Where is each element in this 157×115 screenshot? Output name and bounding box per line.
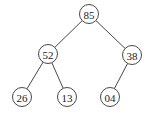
node-label: 38 (127, 50, 139, 62)
tree-edge-85-38 (96, 21, 125, 49)
tree-edge-38-04 (114, 63, 127, 88)
tree-node-04: 04 (101, 88, 120, 107)
tree-node-13: 13 (58, 88, 77, 107)
tree-nodes: 855238261304 (13, 5, 142, 107)
node-label: 52 (43, 49, 54, 61)
tree-edge-85-52 (55, 21, 82, 48)
node-label: 04 (105, 92, 117, 104)
node-label: 85 (84, 9, 96, 21)
tree-node-26: 26 (13, 88, 32, 107)
binary-tree-diagram: 855238261304 (0, 0, 157, 115)
tree-edge-52-13 (52, 63, 63, 89)
tree-node-85: 85 (80, 5, 99, 24)
tree-node-52: 52 (39, 45, 58, 64)
node-label: 13 (62, 92, 74, 104)
tree-node-38: 38 (123, 46, 142, 65)
tree-edge-52-26 (27, 62, 43, 89)
node-label: 26 (17, 92, 29, 104)
